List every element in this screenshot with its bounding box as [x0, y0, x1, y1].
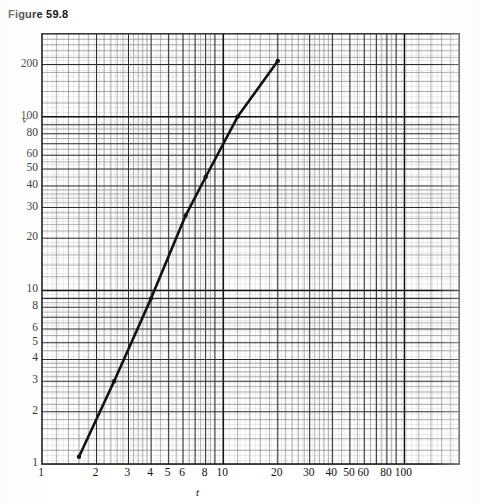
- y-tick-label: 80: [2, 127, 38, 139]
- x-tick-label: 10: [216, 467, 228, 479]
- x-tick-label: 40: [326, 467, 338, 479]
- x-tick-label: 2: [93, 467, 99, 479]
- y-axis-tick-labels: 123456810203040506080100200: [0, 0, 38, 504]
- x-tick-label: 8: [202, 467, 208, 479]
- y-tick-label: 30: [2, 201, 38, 213]
- y-tick-label: 200: [2, 58, 38, 70]
- y-tick-label: 10: [2, 284, 38, 296]
- plot-area: [41, 33, 460, 465]
- x-tick-label: 5: [165, 467, 171, 479]
- y-tick-label: 4: [2, 353, 38, 365]
- x-tick-label: 3: [125, 467, 131, 479]
- x-tick-label: 4: [147, 467, 153, 479]
- y-axis-title: v: [22, 113, 27, 125]
- y-tick-label: 20: [2, 231, 38, 243]
- series-polyline: [79, 61, 278, 457]
- x-tick-label: 60: [357, 467, 369, 479]
- y-tick-label: 60: [2, 149, 38, 161]
- x-tick-label: 1: [38, 467, 44, 479]
- data-point-marker: [149, 296, 153, 300]
- x-tick-label: 6: [179, 467, 185, 479]
- data-point-marker: [77, 455, 81, 459]
- y-tick-label: 5: [2, 336, 38, 348]
- y-tick-label: 8: [2, 300, 38, 312]
- x-tick-label: 80: [380, 467, 392, 479]
- x-axis-tick-labels: 123456810203040506080100: [0, 467, 480, 483]
- x-tick-label: 50: [343, 467, 355, 479]
- x-tick-label: 30: [303, 467, 315, 479]
- x-tick-label: 20: [271, 467, 283, 479]
- data-point-marker: [235, 115, 239, 119]
- x-axis-title: t: [196, 486, 199, 498]
- data-series-line: [42, 34, 459, 464]
- data-point-marker: [203, 175, 207, 179]
- y-tick-label: 50: [2, 162, 38, 174]
- data-point-marker: [112, 379, 116, 383]
- data-point-marker: [276, 59, 280, 63]
- x-tick-label: 100: [395, 467, 412, 479]
- y-tick-label: 40: [2, 179, 38, 191]
- data-point-marker: [183, 213, 187, 217]
- y-tick-label: 3: [2, 374, 38, 386]
- y-tick-label: 2: [2, 405, 38, 417]
- y-tick-label: 6: [2, 322, 38, 334]
- y-tick-label: 100: [2, 110, 38, 122]
